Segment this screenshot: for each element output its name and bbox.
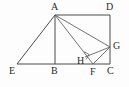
segment-FG bbox=[93, 47, 110, 64]
vertex-label-C: C bbox=[107, 66, 114, 76]
geometry-figure: A D G H E B F C bbox=[0, 0, 129, 87]
vertex-label-B: B bbox=[51, 66, 58, 76]
segment-AG bbox=[55, 15, 110, 47]
segment-AE bbox=[17, 15, 55, 64]
vertex-label-D: D bbox=[106, 2, 113, 12]
vertex-label-H: H bbox=[77, 56, 84, 66]
vertex-label-E: E bbox=[9, 66, 15, 76]
vertex-label-A: A bbox=[51, 2, 58, 12]
vertex-label-F: F bbox=[90, 67, 96, 77]
vertex-label-G: G bbox=[113, 41, 120, 51]
